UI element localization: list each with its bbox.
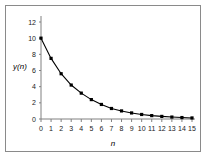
y-axis-tick-labels: 024681012 [28,19,36,123]
data-point-marker [39,37,42,40]
x-axis-tick-label: 15 [188,125,196,132]
data-point-marker [160,115,163,118]
data-series [39,37,193,120]
x-axis-tick-label: 10 [138,125,146,132]
data-point-marker [60,72,63,75]
x-axis-tick-label: 1 [49,125,53,132]
y-axis-tick-label: 10 [28,35,36,42]
data-point-marker [70,83,73,86]
chart-plot: 024681012 0123456789101112131415 y(n) n [0,0,207,158]
y-axis-tick-label: 0 [32,116,36,123]
x-axis-tick-label: 11 [148,125,155,132]
y-axis: 024681012 [28,16,41,123]
y-axis-tick-label: 4 [32,83,36,90]
x-axis-tick-label: 14 [178,125,186,132]
x-axis-title: n [111,139,116,148]
y-axis-tick-label: 12 [28,19,36,26]
series-line [41,38,192,118]
x-axis-tick-label: 12 [158,125,166,132]
y-axis-tick-label: 6 [32,67,36,74]
x-axis-tick-label: 5 [89,125,93,132]
data-point-marker [120,109,123,112]
x-axis-tick-label: 0 [39,125,43,132]
data-point-marker [130,111,133,114]
data-point-marker [80,92,83,95]
data-point-marker [110,107,113,110]
x-axis-tick-label: 9 [130,125,134,132]
y-axis-title: y(n) [12,62,27,71]
x-axis-tick-label: 7 [110,125,114,132]
data-point-marker [150,114,153,117]
x-axis-tick-label: 6 [99,125,103,132]
y-axis-tick-label: 8 [32,51,36,58]
data-point-marker [49,57,52,60]
data-point-marker [180,116,183,119]
figure-container: 024681012 0123456789101112131415 y(n) n [0,0,207,158]
x-axis-tick-label: 3 [69,125,73,132]
series-markers [39,37,193,120]
x-axis-tick-label: 4 [79,125,83,132]
x-axis-tick-label: 13 [168,125,176,132]
x-axis-tick-labels: 0123456789101112131415 [39,125,196,132]
data-point-marker [190,116,193,119]
data-point-marker [90,98,93,101]
data-point-marker [140,113,143,116]
data-point-marker [100,103,103,106]
x-axis-tick-label: 2 [59,125,63,132]
data-point-marker [170,115,173,118]
y-axis-tick-label: 2 [32,99,36,106]
x-axis-tick-label: 8 [120,125,124,132]
x-axis: 0123456789101112131415 [39,119,196,132]
